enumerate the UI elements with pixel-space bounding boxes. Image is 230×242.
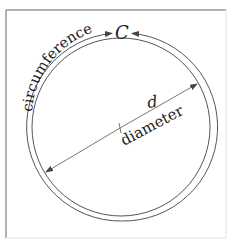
diameter-symbol: d [146,92,159,112]
circle-diagram: C circumference d diameter [0,0,230,242]
circumference-symbol: C [115,22,129,43]
diagram-frame: C circumference d diameter [0,0,230,242]
frame-border [6,10,226,238]
diameter-line [46,128,120,172]
